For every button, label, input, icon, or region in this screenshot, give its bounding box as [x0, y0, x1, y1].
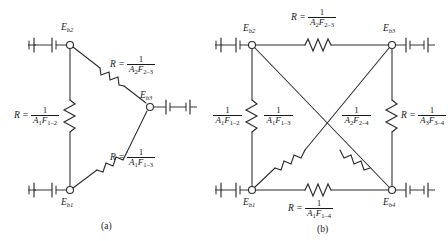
node-label-eb4-b: Eb4 [383, 197, 395, 207]
node-eb1-a [67, 187, 74, 194]
node-eb4-b [389, 187, 396, 194]
caption-panel-a: (a) [101, 221, 112, 231]
resistor-label-a1f13-b: 1 A1F1–3 [262, 106, 293, 126]
node-eb1-b [249, 187, 256, 194]
source-symbol-eb4-b [396, 183, 435, 197]
resistor-label-a2f24-b: 1 A2F2–4 [340, 106, 371, 126]
resistor-label-a1f12-b: 1 A1F1–2 [211, 106, 242, 126]
branch-right-b [386, 49, 397, 186]
caption-panel-b: (b) [317, 224, 328, 234]
resistor-label-a2f23-a: R = 1 A2F2–3 [110, 55, 155, 75]
branch-left-b [246, 49, 257, 186]
source-symbol-eb1-b [215, 183, 248, 197]
node-eb3-b [389, 42, 396, 49]
node-label-eb2-b: Eb2 [243, 23, 255, 33]
resistor-label-a1f12-a: R = 1 A1F1–2 [14, 106, 59, 126]
resistor-a2f24-diagonal [340, 150, 370, 170]
node-label-eb3-a: Eb3 [140, 90, 152, 100]
source-symbol-eb3-b [396, 38, 435, 52]
node-label-eb1-b: Eb1 [243, 197, 255, 207]
resistor-label-a3f34-b: R = 1 A3F3–4 [401, 106, 446, 126]
node-eb2-a [67, 42, 74, 49]
source-symbol-eb3 [154, 100, 197, 114]
node-label-eb2-a: Eb2 [61, 22, 73, 32]
node-eb2-b [249, 42, 256, 49]
branch-eb2-eb1 [64, 49, 75, 186]
resistor-label-a1f13-a: R = 1 A1F1–3 [110, 148, 155, 168]
node-label-eb1-a: Eb1 [61, 197, 73, 207]
node-eb3-a [147, 104, 154, 111]
resistor-label-a1f14-b: R = 1 A1F1–4 [288, 199, 333, 219]
branch-bottom-b [256, 184, 388, 196]
source-symbol-eb1 [28, 183, 66, 197]
branch-top-b [256, 39, 388, 51]
node-label-eb3-b: Eb3 [383, 23, 395, 33]
source-symbol-eb2-b [215, 38, 248, 52]
resistor-label-a2f23-b: R = 1 A2F2–3 [291, 8, 336, 28]
source-symbol-eb2 [28, 38, 66, 52]
radiation-network-figure: Eb2 Eb1 Eb3 R = 1 A1F1–2 R = 1 A2F2–3 R … [0, 0, 448, 241]
